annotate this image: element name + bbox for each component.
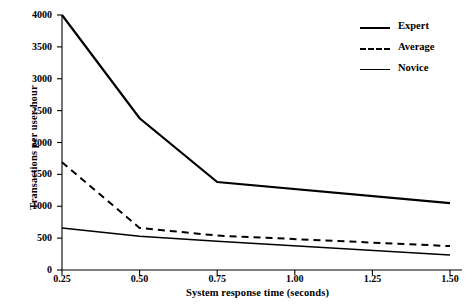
x-tick-label: 0.25 — [32, 274, 92, 284]
x-tick-label: 1.50 — [420, 274, 473, 284]
legend-label-expert: Expert — [398, 20, 429, 31]
y-axis-title: Transactions per user-hour — [28, 23, 39, 273]
x-tick-label: 0.75 — [187, 274, 247, 284]
x-tick-label: 1.00 — [265, 274, 325, 284]
legend-line-novice-icon — [360, 69, 390, 70]
series-line-novice — [62, 228, 450, 255]
y-tick-label: 4000 — [8, 10, 52, 20]
x-tick-label: 0.50 — [110, 274, 170, 284]
legend-line-average-icon — [360, 48, 390, 50]
y-axis-tick-marks — [57, 15, 62, 270]
legend-item-average: Average — [360, 39, 473, 60]
chart-legend: Expert Average Novice — [360, 18, 473, 81]
legend-item-novice: Novice — [360, 60, 473, 81]
x-axis-title: System response time (seconds) — [60, 287, 455, 298]
x-tick-label: 1.25 — [342, 274, 402, 284]
legend-label-novice: Novice — [398, 62, 428, 73]
legend-item-expert: Expert — [360, 18, 473, 39]
chart-figure: 05001000150020002500300035004000 0.250.5… — [0, 0, 473, 307]
legend-label-average: Average — [398, 41, 435, 52]
legend-line-expert-icon — [360, 27, 390, 29]
